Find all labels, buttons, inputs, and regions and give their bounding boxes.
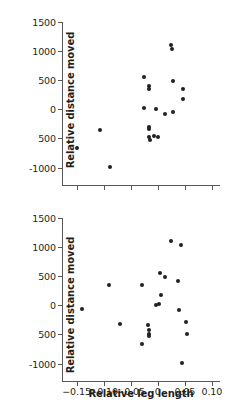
top-y-tick <box>58 80 63 81</box>
data-point <box>171 110 175 114</box>
top-y-tick <box>58 168 63 169</box>
bottom-y-tick-label: 1500 <box>32 213 56 224</box>
top-y-tick-label: 1500 <box>32 17 56 28</box>
data-point <box>170 47 174 51</box>
data-point <box>180 361 184 365</box>
data-point <box>177 308 181 312</box>
x-axis-title: Relative leg length <box>62 388 220 399</box>
top-y-tick <box>58 138 63 139</box>
data-point <box>169 239 173 243</box>
plot-area-top: -1000500050010001500 <box>62 22 220 186</box>
bottom-y-tick-label: 500 <box>38 329 56 340</box>
top-y-tick-label: 500 <box>38 133 56 144</box>
panel-top: Relative distance moved -100050005001000… <box>0 0 234 200</box>
bottom-y-tick-label: 500 <box>38 271 56 282</box>
data-point <box>185 332 189 336</box>
top-y-tick <box>58 51 63 52</box>
top-x-tick <box>104 185 105 190</box>
data-point <box>156 135 160 139</box>
top-x-tick <box>131 185 132 190</box>
data-point <box>147 87 151 91</box>
data-point <box>147 127 151 131</box>
data-point <box>181 97 185 101</box>
plot-area-bottom: -1000500050010001500−0.15−0.10−0.0500.05… <box>62 218 220 382</box>
bottom-y-tick <box>58 218 63 219</box>
data-point <box>107 283 111 287</box>
bottom-y-tick-label: -1000 <box>29 358 56 369</box>
data-point <box>184 320 188 324</box>
data-point <box>142 106 146 110</box>
data-point <box>171 79 175 83</box>
top-y-tick-label: -1000 <box>29 162 56 173</box>
top-y-tick-label: 1000 <box>32 46 56 57</box>
top-x-tick <box>158 185 159 190</box>
data-point <box>108 165 112 169</box>
data-point <box>80 307 84 311</box>
data-point <box>75 146 79 150</box>
bottom-y-tick-label: 1000 <box>32 242 56 253</box>
panel-bottom: Relative distance moved -100050005001000… <box>0 196 234 413</box>
bottom-y-tick <box>58 334 63 335</box>
bottom-y-tick <box>58 364 63 365</box>
bottom-y-tick <box>58 276 63 277</box>
top-y-tick <box>58 109 63 110</box>
data-point <box>140 342 144 346</box>
top-y-tick-label: 500 <box>38 75 56 86</box>
top-y-tick <box>58 22 63 23</box>
data-point <box>118 322 122 326</box>
top-x-tick <box>185 185 186 190</box>
bottom-y-tick <box>58 305 63 306</box>
data-point <box>98 128 102 132</box>
bottom-y-tick <box>58 247 63 248</box>
data-point <box>157 302 161 306</box>
scatter-figure: Relative distance moved -100050005001000… <box>0 0 234 413</box>
data-point <box>181 87 185 91</box>
top-x-tick <box>212 185 213 190</box>
data-point <box>179 243 183 247</box>
data-point <box>163 275 167 279</box>
data-point <box>154 107 158 111</box>
data-point <box>159 293 163 297</box>
data-point <box>142 75 146 79</box>
data-point <box>148 138 152 142</box>
data-point <box>158 271 162 275</box>
data-point <box>140 283 144 287</box>
bottom-y-tick-label: 0 <box>50 300 56 311</box>
data-point <box>163 112 167 116</box>
top-x-tick <box>77 185 78 190</box>
data-point <box>176 279 180 283</box>
top-y-tick-label: 0 <box>50 104 56 115</box>
data-point <box>146 323 150 327</box>
data-point <box>147 334 151 338</box>
